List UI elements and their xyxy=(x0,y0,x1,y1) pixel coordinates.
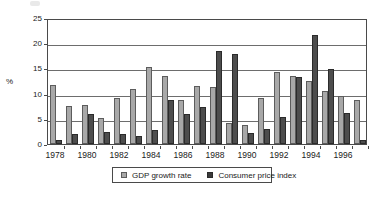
bar-consumer-price-index xyxy=(136,136,141,144)
bar-consumer-price-index xyxy=(184,114,189,144)
y-tick-label: 10 xyxy=(22,91,42,99)
bar-consumer-price-index xyxy=(88,114,93,144)
bar-consumer-price-index xyxy=(168,100,173,144)
x-tick-mark xyxy=(320,146,321,149)
chart-legend: GDP growth rate Consumer price index xyxy=(112,167,272,183)
bar-group xyxy=(288,20,304,144)
bar-group xyxy=(256,20,272,144)
x-tick-mark xyxy=(272,146,273,149)
x-tick-label: 1996 xyxy=(328,150,358,160)
bar-consumer-price-index xyxy=(120,134,125,144)
bar-group xyxy=(208,20,224,144)
x-tick-mark xyxy=(128,146,129,149)
bar-gdp-growth-rate xyxy=(130,89,135,144)
bar-gdp-growth-rate xyxy=(146,67,151,144)
bar-gdp-growth-rate xyxy=(50,85,55,144)
x-tick-label: 1990 xyxy=(232,150,262,160)
legend-swatch-gdp-icon xyxy=(121,172,127,178)
x-tick-mark xyxy=(368,146,369,149)
x-tick-mark xyxy=(208,146,209,149)
bar-gdp-growth-rate xyxy=(114,98,119,144)
bar-group xyxy=(80,20,96,144)
bar-gdp-growth-rate xyxy=(322,91,327,144)
bar-gdp-growth-rate xyxy=(338,96,343,144)
bar-group xyxy=(320,20,336,144)
bar-consumer-price-index xyxy=(344,113,349,144)
legend-swatch-cpi-icon xyxy=(207,172,213,178)
x-tick-mark xyxy=(144,146,145,149)
y-tick-label: 25 xyxy=(22,15,42,23)
bar-consumer-price-index xyxy=(104,132,109,144)
y-tick-label: 0 xyxy=(22,141,42,149)
bar-group xyxy=(176,20,192,144)
bar-group xyxy=(96,20,112,144)
bar-gdp-growth-rate xyxy=(210,87,215,144)
bar-consumer-price-index xyxy=(72,134,77,144)
x-tick-label: 1978 xyxy=(40,150,70,160)
x-tick-label: 1992 xyxy=(264,150,294,160)
bar-gdp-growth-rate xyxy=(306,81,311,145)
bar-group xyxy=(224,20,240,144)
legend-label-gdp: GDP growth rate xyxy=(132,171,191,180)
x-tick-mark xyxy=(288,146,289,149)
bar-consumer-price-index xyxy=(296,77,301,144)
bar-consumer-price-index xyxy=(360,140,365,144)
legend-item-gdp: GDP growth rate xyxy=(121,168,191,182)
bar-gdp-growth-rate xyxy=(82,105,87,144)
bar-consumer-price-index xyxy=(200,107,205,144)
bar-consumer-price-index xyxy=(312,35,317,144)
bar-consumer-price-index xyxy=(264,129,269,144)
bar-group xyxy=(144,20,160,144)
bar-group xyxy=(48,20,64,144)
x-tick-mark xyxy=(64,146,65,149)
y-tick-label: 5 xyxy=(22,116,42,124)
bars-layer xyxy=(48,20,366,144)
bar-consumer-price-index xyxy=(328,69,333,144)
y-tick-mark xyxy=(44,145,47,146)
bar-consumer-price-index xyxy=(152,130,157,144)
plot-area xyxy=(47,19,367,145)
x-tick-mark xyxy=(240,146,241,149)
x-tick-label: 1980 xyxy=(72,150,102,160)
x-tick-mark xyxy=(304,146,305,149)
bar-gdp-growth-rate xyxy=(290,76,295,144)
bar-group xyxy=(304,20,320,144)
bar-gdp-growth-rate xyxy=(274,72,279,144)
legend-item-cpi: Consumer price index xyxy=(207,168,296,182)
bar-group xyxy=(336,20,352,144)
x-tick-label: 1988 xyxy=(200,150,230,160)
bar-group xyxy=(192,20,208,144)
bar-group xyxy=(272,20,288,144)
y-axis-title: % xyxy=(6,77,13,86)
bar-group xyxy=(112,20,128,144)
legend-label-cpi: Consumer price index xyxy=(218,171,296,180)
x-tick-mark xyxy=(160,146,161,149)
bar-gdp-growth-rate xyxy=(258,98,263,144)
bar-gdp-growth-rate xyxy=(98,118,103,144)
x-tick-label: 1994 xyxy=(296,150,326,160)
x-tick-label: 1986 xyxy=(168,150,198,160)
scan-artifact xyxy=(30,1,40,6)
bar-gdp-growth-rate xyxy=(162,76,167,144)
bar-gdp-growth-rate xyxy=(226,123,231,144)
x-tick-mark xyxy=(352,146,353,149)
y-tick-label: 15 xyxy=(22,65,42,73)
bar-gdp-growth-rate xyxy=(354,100,359,144)
x-tick-mark xyxy=(256,146,257,149)
bar-consumer-price-index xyxy=(56,140,61,144)
bar-gdp-growth-rate xyxy=(242,125,247,144)
bar-consumer-price-index xyxy=(248,133,253,144)
bar-group xyxy=(352,20,368,144)
bar-gdp-growth-rate xyxy=(66,106,71,144)
chart-container: % 0510152025 197819801982198419861988199… xyxy=(0,0,378,197)
bar-consumer-price-index xyxy=(280,117,285,144)
bar-consumer-price-index xyxy=(216,51,221,144)
x-tick-mark xyxy=(336,146,337,149)
bar-group xyxy=(128,20,144,144)
bar-consumer-price-index xyxy=(232,54,237,144)
x-tick-label: 1982 xyxy=(104,150,134,160)
x-tick-mark xyxy=(192,146,193,149)
bar-gdp-growth-rate xyxy=(194,86,199,144)
x-tick-mark xyxy=(96,146,97,149)
x-tick-mark xyxy=(112,146,113,149)
